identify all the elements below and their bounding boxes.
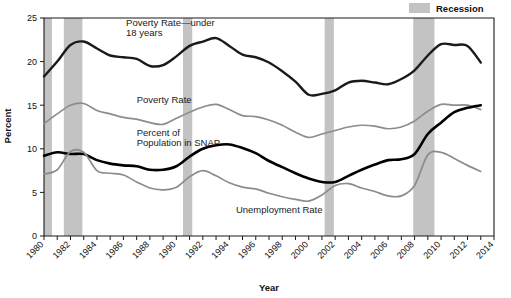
x-tick-label: 1980 xyxy=(24,239,45,260)
legend: Recession xyxy=(409,3,484,14)
recession-legend-label: Recession xyxy=(436,3,484,14)
y-tick-label: 10 xyxy=(27,144,37,154)
series-annotation-label: 18 years xyxy=(126,27,163,38)
x-tick-label: 1994 xyxy=(209,239,230,260)
x-tick-label: 1990 xyxy=(157,239,178,260)
series-annotation-label: Percent of xyxy=(137,127,181,138)
x-tick-label: 2006 xyxy=(368,239,389,260)
y-tick-label: 5 xyxy=(32,188,37,198)
x-tick-label: 2008 xyxy=(395,239,416,260)
x-axis-title: Year xyxy=(259,282,279,293)
series-annotation-label: Population in SNAP xyxy=(137,137,220,148)
x-tick-label: 2002 xyxy=(315,239,336,260)
x-tick-label: 2012 xyxy=(448,239,469,260)
x-tick-label: 1998 xyxy=(262,239,283,260)
x-tick-label: 1982 xyxy=(51,239,72,260)
poverty-snap-unemployment-chart: 0510152025 19801982198419861988199019921… xyxy=(0,0,511,298)
series-annotation-label: Poverty Rate—under xyxy=(126,17,215,28)
x-tick-label: 1988 xyxy=(130,239,151,260)
recession-band xyxy=(44,18,52,236)
y-tick-label: 25 xyxy=(27,13,37,23)
x-tick-label: 2004 xyxy=(342,239,363,260)
y-tick-label: 20 xyxy=(27,57,37,67)
series-annotation-label: Unemployment Rate xyxy=(236,204,323,215)
x-tick-label: 1992 xyxy=(183,239,204,260)
chart-canvas: 0510152025 19801982198419861988199019921… xyxy=(0,0,511,298)
x-tick-label: 2000 xyxy=(289,239,310,260)
x-axis-ticks-group: 1980198219841986198819901992199419961998… xyxy=(24,236,495,261)
y-tick-label: 0 xyxy=(32,231,37,241)
x-tick-label: 2010 xyxy=(421,239,442,260)
x-tick-label: 2014 xyxy=(474,239,495,260)
y-axis-ticks-group: 0510152025 xyxy=(27,13,44,241)
recession-band xyxy=(325,18,334,236)
series-annotations-group: Poverty Rate—under18 yearsPoverty RatePe… xyxy=(126,17,322,215)
x-tick-label: 1996 xyxy=(236,239,257,260)
series-annotation-label: Poverty Rate xyxy=(137,94,192,105)
y-tick-label: 15 xyxy=(27,101,37,111)
y-axis-title: Percent xyxy=(2,108,13,144)
recession-legend-swatch xyxy=(409,3,430,13)
x-tick-label: 1984 xyxy=(77,239,98,260)
x-tick-label: 1986 xyxy=(104,239,125,260)
